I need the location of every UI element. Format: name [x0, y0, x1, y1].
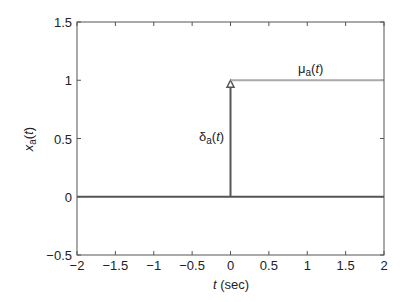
chart: −2−1.5−1−0.500.511.52 −0.500.511.5 t (se… — [0, 0, 408, 302]
y-tick-label: 1 — [65, 73, 72, 88]
y-tick-label: −0.5 — [46, 248, 72, 263]
x-tick-label: 0.5 — [260, 258, 278, 273]
x-tick-label: 1.5 — [337, 258, 355, 273]
impulse-arrowhead-icon — [227, 80, 234, 87]
x-tick-label: −0.5 — [179, 258, 205, 273]
mu-symbol: μ — [298, 61, 306, 76]
x-axis-ticks: −2−1.5−1−0.500.511.52 — [70, 22, 388, 273]
x-tick-label: −1 — [146, 258, 161, 273]
x-tick-label: 1 — [304, 258, 311, 273]
delta-paren-close: ) — [220, 129, 224, 144]
x-tick-label: 2 — [380, 258, 387, 273]
y-tick-label: 0 — [65, 190, 72, 205]
mu-paren-close: ) — [319, 61, 323, 76]
y-label-paren-close: ) — [21, 127, 36, 131]
mu-annotation: μa(t) — [298, 61, 323, 78]
y-tick-label: 0.5 — [54, 132, 72, 147]
delta-annotation: δa(t) — [199, 129, 224, 146]
y-axis-label: xa(t) — [21, 127, 38, 152]
x-tick-label: −1.5 — [103, 258, 129, 273]
plot-series — [77, 80, 384, 197]
x-tick-label: 0 — [227, 258, 234, 273]
y-tick-label: 1.5 — [54, 15, 72, 30]
x-axis-label: t (sec) — [213, 277, 249, 292]
delta-symbol: δ — [199, 129, 206, 144]
x-axis-label-unit: (sec) — [217, 277, 250, 292]
